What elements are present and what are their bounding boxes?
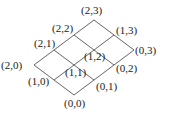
node-label-1-3: (1,3) (116, 24, 137, 37)
node-label-2-0: (2,0) (1, 59, 22, 72)
node-label-2-2: (2,2) (52, 22, 73, 35)
node-label-1-0: (1,0) (28, 75, 49, 88)
node-label-1-1: (1,1) (65, 66, 86, 79)
node-label-0-1: (0,1) (96, 80, 117, 93)
node-label-0-0: (0,0) (64, 97, 85, 110)
lattice-diagram: (0,0)(1,0)(2,0)(0,1)(1,1)(2,1)(0,2)(1,2)… (0, 0, 169, 120)
node-label-1-2: (1,2) (84, 50, 105, 63)
node-label-0-2: (0,2) (116, 62, 137, 75)
node-labels: (0,0)(1,0)(2,0)(0,1)(1,1)(2,1)(0,2)(1,2)… (1, 4, 156, 110)
node-label-2-1: (2,1) (34, 37, 55, 50)
node-label-0-3: (0,3) (135, 44, 156, 57)
node-label-2-3: (2,3) (81, 4, 102, 17)
